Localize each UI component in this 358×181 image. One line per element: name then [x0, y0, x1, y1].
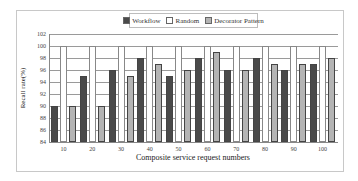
bar-decorator-pattern-20 — [98, 106, 105, 142]
bar-decorator-pattern-60 — [213, 52, 220, 142]
legend-label-random: Random — [175, 17, 199, 25]
y-axis-label: Recall rate(%) — [19, 68, 27, 109]
bar-workflow-100 — [310, 64, 317, 142]
bar-workflow-10 — [51, 106, 58, 142]
x-tick-label: 10 — [60, 146, 66, 152]
bar-decorator-pattern-70 — [242, 70, 249, 142]
chart-legend: Workflow Random Decorator Pattern — [129, 13, 258, 28]
bar-workflow-40 — [137, 58, 144, 142]
y-tick-label: 102 — [28, 31, 46, 37]
bar-decorator-pattern-100 — [328, 58, 335, 142]
bar-workflow-70 — [224, 70, 231, 142]
y-tick-label: 90 — [28, 103, 46, 109]
bar-random-40 — [146, 46, 153, 142]
x-tick-label: 70 — [233, 146, 239, 152]
bar-workflow-80 — [253, 58, 260, 142]
y-tick-label: 100 — [28, 43, 46, 49]
bar-decorator-pattern-80 — [271, 64, 278, 142]
bar-random-100 — [319, 46, 326, 142]
x-tick-label: 60 — [204, 146, 210, 152]
bar-decorator-pattern-90 — [299, 64, 306, 142]
bar-decorator-pattern-30 — [127, 76, 134, 142]
bar-workflow-20 — [80, 76, 87, 142]
x-tick-label: 100 — [318, 146, 327, 152]
x-tick-label: 90 — [291, 146, 297, 152]
legend-label-workflow: Workflow — [132, 17, 160, 25]
y-tick-label: 88 — [28, 115, 46, 121]
x-tick-label: 50 — [176, 146, 182, 152]
bar-random-20 — [89, 46, 96, 142]
y-tick-label: 94 — [28, 79, 46, 85]
x-tick-label: 20 — [89, 146, 95, 152]
bar-random-30 — [118, 46, 125, 142]
legend-item-decorator: Decorator Pattern — [205, 17, 264, 25]
y-tick-label: 98 — [28, 55, 46, 61]
y-tick-label: 86 — [28, 127, 46, 133]
legend-swatch-random — [166, 17, 173, 24]
bar-random-10 — [60, 46, 67, 142]
bar-random-50 — [175, 46, 182, 142]
bar-decorator-pattern-10 — [69, 106, 76, 142]
y-tick-label: 96 — [28, 67, 46, 73]
y-tick-label: 92 — [28, 91, 46, 97]
bar-random-60 — [204, 46, 211, 142]
bar-workflow-30 — [109, 70, 116, 142]
x-axis-label: Composite service request numbers — [49, 153, 337, 162]
bar-workflow-60 — [195, 58, 202, 142]
y-tick-label: 84 — [28, 139, 46, 145]
bar-random-90 — [290, 46, 297, 142]
x-tick-label: 80 — [262, 146, 268, 152]
x-tick-label: 40 — [147, 146, 153, 152]
bar-workflow-90 — [281, 70, 288, 142]
legend-label-decorator: Decorator Pattern — [214, 17, 264, 25]
bar-random-80 — [262, 46, 269, 142]
plot-area — [49, 34, 338, 143]
legend-item-random: Random — [166, 17, 199, 25]
x-tick-label: 30 — [118, 146, 124, 152]
gridline — [50, 34, 338, 35]
legend-swatch-workflow — [123, 17, 130, 24]
bar-decorator-pattern-50 — [184, 70, 191, 142]
legend-swatch-decorator — [205, 17, 212, 24]
bar-workflow-50 — [166, 76, 173, 142]
bar-decorator-pattern-40 — [155, 64, 162, 142]
bar-random-70 — [233, 46, 240, 142]
legend-item-workflow: Workflow — [123, 17, 160, 25]
